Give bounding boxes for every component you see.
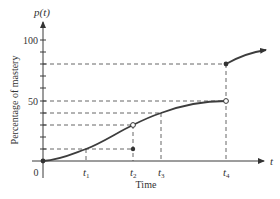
x-label-t1: t1 [83, 166, 90, 180]
point-t4-filled [224, 62, 229, 67]
y-label-50: 50 [28, 96, 38, 107]
point-t2-filled [131, 147, 135, 151]
dashed-reference-lines [43, 64, 226, 161]
y-label-100: 100 [23, 35, 38, 46]
mastery-chart: p(t) 100 50 0 Percentage of mastery Time… [0, 0, 280, 199]
y-axis-title: Percentage of mastery [9, 56, 20, 145]
x-label-t3: t3 [158, 166, 165, 180]
origin-label: 0 [34, 167, 39, 178]
point-t2-open [131, 123, 136, 128]
y-axis-symbol: p(t) [33, 6, 50, 19]
point-t4-open [224, 99, 229, 104]
point-origin-filled [41, 159, 46, 164]
x-label-t4: t4 [223, 166, 230, 180]
x-axis-title: Time [136, 179, 157, 190]
x-label-t2: t2 [130, 166, 137, 180]
curve-segment-2 [226, 50, 266, 64]
x-axis-symbol: t [270, 155, 274, 167]
curve-segment-1 [43, 101, 226, 161]
